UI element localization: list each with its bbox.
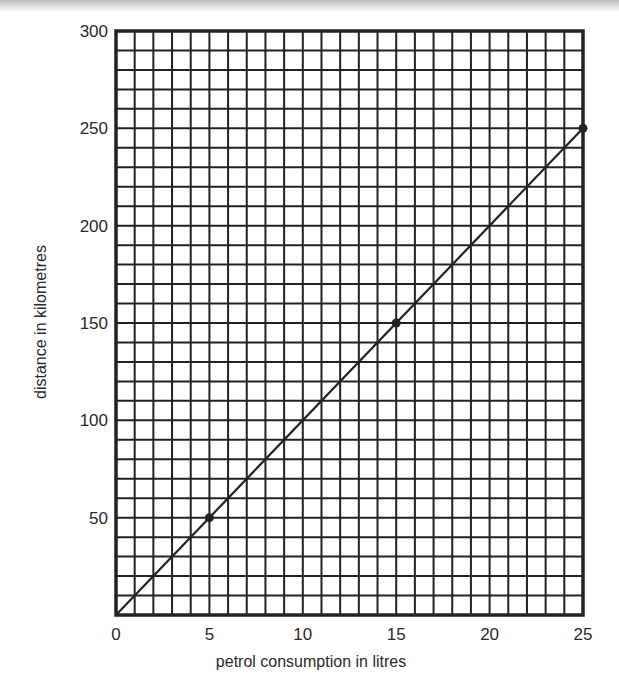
data-line [116,128,583,615]
y-axis-label: distance in kilometres [32,245,49,399]
y-tick-label: 50 [89,509,108,528]
data-point-marker [579,124,588,133]
x-axis-ticks: 0510152025 [111,625,592,644]
x-tick-label: 15 [387,625,406,644]
grid-lines [116,31,583,615]
y-tick-label: 250 [80,119,108,138]
x-tick-label: 20 [480,625,499,644]
x-tick-label: 10 [293,625,312,644]
data-series [116,124,588,615]
y-tick-label: 150 [80,314,108,333]
x-tick-label: 0 [111,625,120,644]
y-tick-label: 100 [80,411,108,430]
x-axis-label: petrol consumption in litres [216,653,406,670]
y-tick-label: 300 [80,22,108,41]
line-chart: 0510152025 50100150200250300 petrol cons… [0,0,619,697]
data-point-marker [392,319,401,328]
y-axis-ticks: 50100150200250300 [80,22,108,528]
y-tick-label: 200 [80,217,108,236]
data-point-marker [205,513,214,522]
x-tick-label: 5 [205,625,214,644]
x-tick-label: 25 [574,625,593,644]
